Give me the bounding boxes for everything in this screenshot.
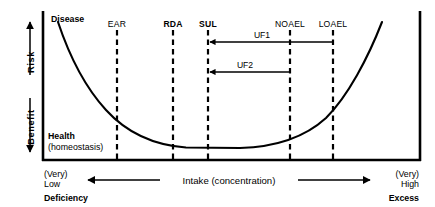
low-intake-label-line2: Low [44,179,61,189]
risk-benefit-curve-figure: Risk Benefit Disease Health (homeostasis… [0,0,435,207]
health-label-line1: Health [48,131,75,141]
y-axis-risk-label: Risk [26,51,36,73]
uf2-group: UF2 [210,60,290,72]
low-intake-label-line1: (Very) [44,169,68,179]
uf2-label: UF2 [237,60,253,70]
health-label-line2: (homeostasis) [48,142,103,152]
figure-container: Risk Benefit Disease Health (homeostasis… [0,0,435,207]
marker-label-sul: SUL [199,19,217,29]
plot-frame [42,11,421,161]
y-axis-benefit-label: Benefit [26,109,36,144]
uf1-group: UF1 [210,30,333,42]
deficiency-label: Deficiency [44,193,88,203]
disease-label: Disease [51,14,84,24]
high-intake-label-line1: (Very) [396,169,420,179]
uf1-label: UF1 [254,30,270,40]
marker-label-ear: EAR [108,19,126,29]
excess-label: Excess [389,193,419,203]
marker-label-rda: RDA [163,19,182,29]
high-intake-label-line2: High [401,179,419,189]
marker-label-loael: LOAEL [319,19,348,29]
x-axis-label: Intake (concentration) [183,175,276,186]
marker-label-noael: NOAEL [275,19,305,29]
